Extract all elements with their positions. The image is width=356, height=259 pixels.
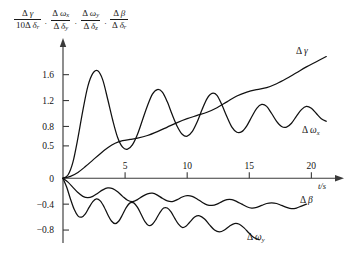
y-axis-label-fraction-gamma: Δ γ 10Δ δr xyxy=(14,9,41,31)
y-tick-label: 1.6 xyxy=(42,70,54,80)
beta-symbol: β xyxy=(121,8,125,18)
y-tick-label: 0.8 xyxy=(42,122,54,132)
curve-delta-gamma xyxy=(63,57,326,179)
y-tick-labels: 1.61.20.80.50−0.4−0.8 xyxy=(37,70,54,235)
axes-group xyxy=(60,38,344,243)
x-tick-labels: 5101520 xyxy=(123,161,317,171)
x-tick-label: 10 xyxy=(182,161,192,171)
separator-dot: · xyxy=(74,12,77,28)
subscript-z: z xyxy=(95,24,98,31)
subscript-y: y xyxy=(96,11,99,18)
curve-delta-omega-x xyxy=(63,70,326,178)
subscript-r: r xyxy=(37,23,40,30)
subscript-y: y xyxy=(65,24,68,31)
data-curves xyxy=(63,57,326,240)
y-axis-label-fraction-omega-y: Δ ωy Δ δz xyxy=(80,9,101,31)
curve-label-delta-beta: Δβ xyxy=(300,195,313,205)
curve-label-delta-gamma: Δγ xyxy=(296,46,308,56)
x-tick-label: 20 xyxy=(307,161,317,171)
delta-symbol: Δ xyxy=(25,20,31,30)
y-tick-label: −0.4 xyxy=(37,200,54,210)
delta-symbol: Δ xyxy=(83,21,89,31)
x-axis-unit-label: t/s xyxy=(318,181,327,191)
curve-delta-beta xyxy=(63,178,306,208)
y-axis-arrow xyxy=(60,38,66,47)
chart-figure: Δ γ 10Δ δr · Δ ωx Δ δy · Δ ωy Δ δz · Δ β… xyxy=(0,0,356,259)
separator-dot: · xyxy=(44,12,47,28)
delta-symbol: Δ xyxy=(22,8,28,18)
x-tick-label: 5 xyxy=(123,161,128,171)
y-axis-label-fraction-beta: Δ β Δ δr xyxy=(110,9,128,31)
separator-dot: · xyxy=(104,12,107,28)
delta-symbol: Δ xyxy=(52,8,58,18)
subscript-x: x xyxy=(66,11,69,18)
curve-label-delta-omega-y: Δωy xyxy=(247,232,265,243)
delta-symbol: Δ xyxy=(53,21,59,31)
y-tick-label: 1.2 xyxy=(42,96,54,106)
delta-symbol: Δ xyxy=(112,20,118,30)
delta-symbol: Δ xyxy=(82,8,88,18)
y-tick-label: 0 xyxy=(49,174,54,184)
coefficient-10: 10 xyxy=(16,20,25,30)
curve-label-delta-omega-x: Δωx xyxy=(302,125,320,136)
y-tick-label: 0.5 xyxy=(42,141,54,151)
x-axis-arrow xyxy=(335,175,344,181)
y-tick-label: −0.8 xyxy=(37,225,54,235)
y-tick-marks xyxy=(63,75,69,230)
subscript-r: r xyxy=(124,23,127,30)
curve-delta-omega-y xyxy=(63,178,259,240)
x-tick-label: 15 xyxy=(245,161,255,171)
plot-area: 1.61.20.80.50−0.4−0.8 5101520 t/s Δγ Δωx… xyxy=(0,0,356,259)
y-axis-label: Δ γ 10Δ δr · Δ ωx Δ δy · Δ ωy Δ δz · Δ β… xyxy=(14,9,128,31)
x-tick-marks xyxy=(125,172,311,178)
gamma-symbol: γ xyxy=(30,8,34,18)
y-axis-label-fraction-omega-x: Δ ωx Δ δy xyxy=(50,9,71,31)
delta-symbol: Δ xyxy=(113,8,119,18)
